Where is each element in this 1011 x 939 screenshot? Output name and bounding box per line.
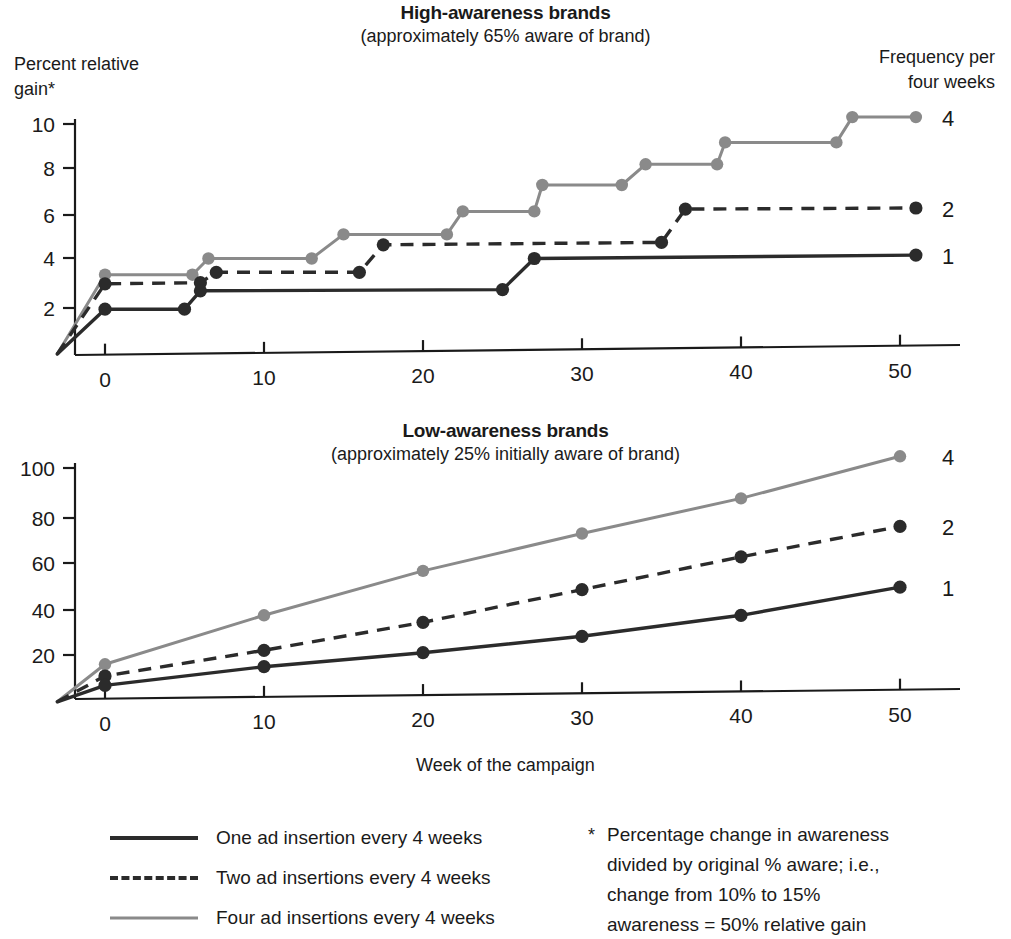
series-label-high-awareness-1: 1 <box>942 244 954 269</box>
y-tick-label-low-awareness-40: 40 <box>32 599 55 622</box>
data-point-low-awareness-4 <box>576 527 588 539</box>
chart-svg-low-awareness: 2040608010001020304050421 <box>0 435 1011 735</box>
data-point-high-awareness-1 <box>496 283 509 296</box>
series-line-low-awareness-1 <box>57 587 900 702</box>
data-point-low-awareness-1 <box>575 630 588 643</box>
legend-item: One ad insertion every 4 weeks <box>110 818 580 858</box>
y-tick-label-high-awareness-10: 10 <box>32 113 55 136</box>
data-point-high-awareness-1 <box>194 284 207 297</box>
data-point-high-awareness-4 <box>536 179 548 191</box>
y-tick-label-high-awareness-8: 8 <box>43 157 55 180</box>
data-point-low-awareness-1 <box>416 646 429 659</box>
footnote-text: Percentage change in awareness divided b… <box>607 820 889 939</box>
legend-item-label: Four ad insertions every 4 weeks <box>216 907 495 929</box>
data-point-high-awareness-1 <box>528 252 541 265</box>
y-tick-label-low-awareness-80: 80 <box>32 507 55 530</box>
legend-item-label: One ad insertion every 4 weeks <box>216 827 482 849</box>
data-point-high-awareness-4 <box>337 228 349 240</box>
data-point-high-awareness-4 <box>719 136 731 148</box>
chart-low-awareness-plot: 2040608010001020304050421 <box>0 435 1011 735</box>
data-point-low-awareness-4 <box>99 658 111 670</box>
series-label-low-awareness-4: 4 <box>942 445 954 470</box>
x-tick-label-low-awareness-30: 30 <box>570 706 593 729</box>
data-point-high-awareness-4 <box>202 252 214 264</box>
x-axis-caption: Week of the campaign <box>0 755 1011 776</box>
x-tick-label-low-awareness-50: 50 <box>888 703 911 726</box>
data-point-high-awareness-4 <box>830 136 842 148</box>
data-point-low-awareness-2 <box>416 616 429 629</box>
data-point-low-awareness-2 <box>893 520 906 533</box>
data-point-low-awareness-4 <box>735 492 747 504</box>
x-tick-label-low-awareness-20: 20 <box>411 708 434 731</box>
data-point-high-awareness-4 <box>528 205 540 217</box>
data-point-low-awareness-4 <box>894 450 906 462</box>
series-label-high-awareness-4: 4 <box>942 106 954 131</box>
data-point-high-awareness-2 <box>655 236 668 249</box>
legend-item: Four ad insertions every 4 weeks <box>110 898 580 938</box>
x-tick-label-low-awareness-40: 40 <box>729 704 752 727</box>
data-point-high-awareness-4 <box>441 228 453 240</box>
legend-item-label: Two ad insertions every 4 weeks <box>216 867 491 889</box>
series-label-high-awareness-2: 2 <box>942 197 954 222</box>
x-tick-label-high-awareness-20: 20 <box>411 364 434 387</box>
legend-item: Two ad insertions every 4 weeks <box>110 858 580 898</box>
x-tick-label-high-awareness-10: 10 <box>252 366 275 389</box>
data-point-high-awareness-4 <box>306 252 318 264</box>
data-point-low-awareness-4 <box>258 609 270 621</box>
y-tick-label-low-awareness-100: 100 <box>20 457 55 480</box>
y-tick-label-high-awareness-6: 6 <box>43 204 55 227</box>
data-point-high-awareness-2 <box>377 238 390 251</box>
solid-dark-line-icon <box>110 831 198 845</box>
chart-svg-high-awareness: 24681001020304050421 <box>0 95 1011 395</box>
frequency-caption: Frequency per four weeks <box>879 45 995 95</box>
data-point-high-awareness-2 <box>679 203 692 216</box>
dashed-dark-line-icon <box>110 871 198 885</box>
y-tick-label-low-awareness-60: 60 <box>32 552 55 575</box>
data-point-high-awareness-1 <box>909 249 922 262</box>
data-point-high-awareness-4 <box>639 158 651 170</box>
footnote: * Percentage change in awareness divided… <box>588 820 988 939</box>
data-point-high-awareness-1 <box>98 303 111 316</box>
data-point-high-awareness-4 <box>457 205 469 217</box>
y-tick-label-high-awareness-2: 2 <box>43 297 55 320</box>
series-line-high-awareness-4 <box>57 117 916 354</box>
solid-gray-line-icon <box>110 911 198 925</box>
data-point-high-awareness-2 <box>98 277 111 290</box>
data-point-high-awareness-1 <box>178 303 191 316</box>
chart-top-title: High-awareness brands <box>0 2 1011 24</box>
data-point-low-awareness-1 <box>734 609 747 622</box>
series-label-low-awareness-2: 2 <box>942 515 954 540</box>
y-tick-label-low-awareness-20: 20 <box>32 644 55 667</box>
data-point-high-awareness-4 <box>711 158 723 170</box>
data-point-low-awareness-1 <box>893 581 906 594</box>
legend: One ad insertion every 4 weeksTwo ad ins… <box>110 818 580 938</box>
footnote-marker: * <box>588 820 595 939</box>
x-tick-label-high-awareness-30: 30 <box>570 362 593 385</box>
series-label-low-awareness-1: 1 <box>942 576 954 601</box>
y-tick-label-high-awareness-4: 4 <box>43 247 55 270</box>
data-point-high-awareness-4 <box>846 111 858 123</box>
data-point-low-awareness-4 <box>417 565 429 577</box>
x-tick-label-low-awareness-0: 0 <box>99 712 111 735</box>
x-tick-label-low-awareness-10: 10 <box>252 710 275 733</box>
data-point-high-awareness-4 <box>616 179 628 191</box>
x-axis-line-low-awareness <box>75 689 960 699</box>
data-point-high-awareness-2 <box>210 266 223 279</box>
data-point-low-awareness-2 <box>575 583 588 596</box>
data-point-low-awareness-2 <box>734 550 747 563</box>
data-point-high-awareness-4 <box>910 111 922 123</box>
chart-top-subtitle: (approximately 65% aware of brand) <box>0 26 1011 47</box>
data-point-low-awareness-1 <box>257 660 270 673</box>
x-tick-label-high-awareness-50: 50 <box>888 359 911 382</box>
x-tick-label-high-awareness-40: 40 <box>729 360 752 383</box>
data-point-high-awareness-2 <box>353 266 366 279</box>
data-point-low-awareness-2 <box>257 644 270 657</box>
x-tick-label-high-awareness-0: 0 <box>99 368 111 391</box>
data-point-low-awareness-1 <box>98 679 111 692</box>
chart-high-awareness-plot: 24681001020304050421 <box>0 95 1011 395</box>
x-axis-line-high-awareness <box>75 345 960 355</box>
data-point-high-awareness-2 <box>909 201 922 214</box>
series-line-high-awareness-2 <box>57 208 916 354</box>
